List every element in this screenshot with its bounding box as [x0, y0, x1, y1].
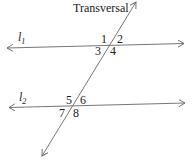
line-l1-label: l1	[18, 30, 25, 46]
angle-1-label: 1	[101, 32, 107, 46]
angle-7-label: 7	[59, 106, 65, 120]
angle-3-label: 3	[95, 44, 101, 58]
angle-2-label: 2	[117, 32, 123, 46]
transversal-line	[42, 2, 136, 156]
angle-6-label: 6	[80, 93, 86, 107]
angle-4-label: 4	[110, 44, 116, 58]
angle-5-label: 5	[66, 93, 72, 107]
line-l2-label: l2	[19, 90, 26, 106]
angle-8-label: 8	[73, 106, 79, 120]
transversal-diagram: Transversal l1 l2 1 2 3 4 5 6 7 8	[0, 0, 194, 167]
transversal-label: Transversal	[73, 1, 129, 15]
line-l2	[9, 103, 185, 108]
